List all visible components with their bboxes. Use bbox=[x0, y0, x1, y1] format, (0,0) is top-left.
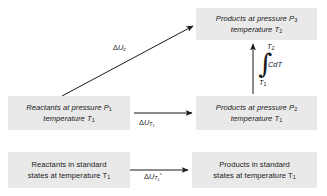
state-box-reactants-standard-states: Reactants in standard states at temperat… bbox=[8, 152, 130, 188]
standard-state-symbol: ° bbox=[160, 172, 162, 178]
box-line-1: Products in standard bbox=[219, 159, 290, 170]
subscript-t-index: 1 bbox=[153, 124, 155, 128]
box-line-2-text: states at temperature T bbox=[28, 171, 108, 180]
state-box-products-pressure-p3: Products at pressure P3 temperature T2 bbox=[196, 8, 317, 40]
box-line-2-text: temperature T bbox=[43, 114, 91, 123]
box-line-2-text: temperature T bbox=[231, 25, 279, 34]
arrow-label-standard-energy: ΔUT1° bbox=[144, 172, 162, 181]
box-line-2-subscript: 1 bbox=[92, 117, 95, 123]
state-box-products-pressure-p2: Products at pressure P2 temperature T1 bbox=[196, 96, 317, 130]
box-line-2-subscript: 1 bbox=[293, 174, 296, 180]
box-line-1: Products at pressure P3 bbox=[216, 13, 297, 24]
box-line-1-text: Products at pressure P bbox=[216, 103, 294, 112]
thermodynamic-cycle-diagram: Products at pressure P3 temperature T2 R… bbox=[0, 0, 327, 196]
arrow-label-isothermal-energy: ΔUT1 bbox=[139, 118, 155, 127]
box-line-2: states at temperature T1 bbox=[213, 170, 296, 181]
box-line-2: states at temperature T1 bbox=[28, 170, 111, 181]
integral-expression: T2 ∫ CdT T1 bbox=[258, 42, 314, 96]
box-line-2-text: temperature T bbox=[231, 114, 279, 123]
box-line-2: temperature T1 bbox=[231, 113, 282, 124]
subscript-c: c bbox=[123, 46, 126, 52]
integral-lower-limit: T1 bbox=[259, 78, 266, 87]
arrow-label-combustion-energy: ΔUc bbox=[113, 43, 126, 52]
box-line-2-text: states at temperature T bbox=[213, 171, 293, 180]
box-line-1: Reactants at pressure P1 bbox=[26, 102, 112, 113]
subscript-t-index: 1 bbox=[158, 178, 160, 182]
arrow-combustion bbox=[62, 26, 193, 96]
box-line-1-text: Products at pressure P bbox=[216, 14, 294, 23]
box-line-2-subscript: 1 bbox=[279, 117, 282, 123]
lower-limit-index: 1 bbox=[264, 81, 267, 87]
box-line-2-subscript: 1 bbox=[107, 174, 110, 180]
integral-integrand: CdT bbox=[268, 60, 282, 69]
subscript-group: T1 bbox=[149, 121, 154, 127]
state-box-reactants-pressure-p1: Reactants at pressure P1 temperature T1 bbox=[8, 96, 130, 130]
box-line-1-subscript: 1 bbox=[109, 106, 112, 112]
box-line-1-subscript: 2 bbox=[294, 106, 297, 112]
box-line-1: Reactants in standard bbox=[32, 159, 107, 170]
state-box-products-standard-states: Products in standard states at temperatu… bbox=[192, 152, 317, 188]
box-line-1-subscript: 3 bbox=[294, 17, 297, 23]
box-line-2: temperature T1 bbox=[43, 113, 94, 124]
box-line-2: temperature T2 bbox=[231, 24, 282, 35]
box-line-2-subscript: 2 bbox=[279, 28, 282, 34]
box-line-1: Products at pressure P2 bbox=[216, 102, 297, 113]
box-line-1-text: Reactants at pressure P bbox=[26, 103, 109, 112]
